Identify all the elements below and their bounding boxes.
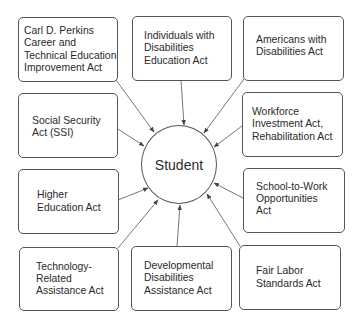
node-flsa: Fair Labor Standards Act xyxy=(239,245,341,310)
node-label: Carl D. Perkins Career and Technical Edu… xyxy=(24,25,116,74)
arrow-ssi xyxy=(118,129,144,146)
node-label: Technology- Related Assistance Act xyxy=(36,261,104,298)
node-perkins: Carl D. Perkins Career and Technical Edu… xyxy=(18,17,118,82)
node-label: School-to-Work Opportunities Act xyxy=(256,181,327,218)
node-label: Americans with Disabilities Act xyxy=(256,34,326,58)
arrow-ada xyxy=(204,79,244,133)
node-hea: Higher Education Act xyxy=(18,169,119,234)
node-ssi: Social Security Act (SSI) xyxy=(18,93,118,158)
node-label: Fair Labor Standards Act xyxy=(256,265,321,289)
arrow-flsa xyxy=(207,194,240,246)
arrow-perkins xyxy=(116,80,154,132)
arrow-wia xyxy=(214,126,242,147)
student-node: Student xyxy=(141,125,217,204)
arrow-tech xyxy=(118,200,158,248)
arrow-dd xyxy=(177,205,180,246)
node-idea: Individuals with Disabilities Education … xyxy=(132,16,232,81)
arrow-hea xyxy=(118,188,148,200)
node-label: Higher Education Act xyxy=(37,189,101,213)
node-label: Individuals with Disabilities Education … xyxy=(144,30,214,67)
student-label: Student xyxy=(155,157,203,173)
node-label: Workforce Investment Act, Rehabilitation… xyxy=(252,106,332,143)
node-label: Developmental Disabilities Assistance Ac… xyxy=(144,260,213,297)
arrow-stw xyxy=(214,183,243,198)
node-label: Social Security Act (SSI) xyxy=(32,115,101,139)
arrow-idea xyxy=(181,80,184,125)
node-tech: Technology- Related Assistance Act xyxy=(19,247,119,311)
node-wia: Workforce Investment Act, Rehabilitation… xyxy=(242,92,343,157)
node-ada: Americans with Disabilities Act xyxy=(243,16,344,81)
node-dd: Developmental Disabilities Assistance Ac… xyxy=(131,246,232,311)
node-stw: School-to-Work Opportunities Act xyxy=(243,168,345,233)
